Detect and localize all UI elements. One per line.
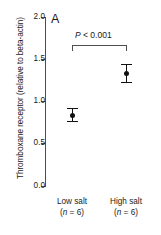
y-ticklabel-3: 1.5 [23, 55, 45, 63]
x-category-high-salt-label: High salt [110, 197, 142, 206]
bracket-horizontal-bar [72, 45, 127, 46]
error-bar-cap-lower-high-salt [121, 82, 132, 83]
data-marker-high-salt [124, 71, 129, 76]
plot-area: 0.0 0.5 1.0 1.5 2.0 A P < 0.001 [0, 0, 161, 235]
y-ticklabel-1: 0.5 [23, 139, 45, 147]
n-suffix-high: = 6) [121, 208, 138, 217]
error-bar-cap-lower-low-salt [67, 121, 78, 122]
y-ticklabel-3-wrap: 1.5 [17, 55, 45, 63]
panel-letter: A [51, 13, 59, 26]
p-value-text: < 0.001 [81, 30, 112, 40]
p-value-annotation: P < 0.001 [75, 31, 112, 40]
x-category-low-salt-n: (n = 6) [42, 207, 102, 218]
y-ticklabel-4: 2.0 [23, 13, 45, 21]
error-bar-cap-upper-low-salt [67, 108, 78, 109]
y-ticklabel-0-wrap: 0.0 [17, 182, 45, 190]
y-ticklabel-0: 0.0 [23, 182, 45, 190]
n-suffix-low: = 6) [67, 208, 84, 217]
y-axis-line [45, 17, 46, 187]
y-ticklabel-2: 1.0 [23, 97, 45, 105]
data-point-group-low-salt [72, 0, 73, 1]
data-marker-low-salt [70, 113, 75, 118]
y-ticklabel-4-wrap: 2.0 [17, 13, 45, 21]
data-point-group-high-salt [126, 0, 127, 1]
error-bar-cap-upper-high-salt [121, 64, 132, 65]
x-category-high-salt: High salt (n = 6) [96, 196, 156, 218]
y-ticklabel-1-wrap: 0.5 [17, 139, 45, 147]
bracket-right-tick [126, 45, 127, 51]
x-category-high-salt-n: (n = 6) [96, 207, 156, 218]
x-category-low-salt-label: Low salt [57, 197, 87, 206]
x-category-low-salt: Low salt (n = 6) [42, 196, 102, 218]
y-ticklabel-2-wrap: 1.0 [17, 97, 45, 105]
bracket-left-tick [72, 45, 73, 51]
figure-panel-a: Thromboxane receptor (relative to beta-a… [0, 0, 161, 235]
